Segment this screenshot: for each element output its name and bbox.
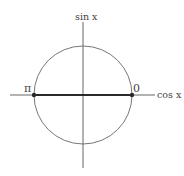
sin-axis-label: sin x: [75, 11, 98, 22]
point-pi: [32, 93, 36, 97]
cos-axis-label: cos x: [157, 89, 182, 100]
zero-label: 0: [133, 82, 140, 95]
pi-label: π: [24, 82, 31, 95]
unit-circle-diagram: sin x cos x π 0: [0, 0, 184, 176]
